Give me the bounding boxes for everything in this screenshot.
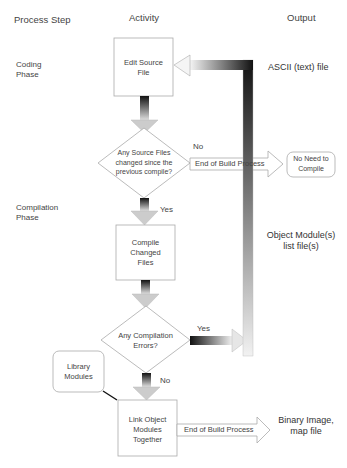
output-object-line2: list file(s) [266, 241, 336, 252]
edit-source-label: Edit Source File [114, 58, 173, 78]
edge-label-end-build-1: End of Build Process [195, 159, 265, 169]
no-need-line1: No Need to [287, 154, 335, 164]
header-process-step: Process Step [14, 14, 71, 25]
decision1-line2: changed since the [100, 158, 188, 168]
output-ascii: ASCII (text) file [268, 62, 329, 73]
decision2-line1: Any Compilation [101, 331, 190, 341]
header-activity: Activity [129, 12, 159, 23]
phase-coding-line2: Phase [16, 70, 41, 80]
compile-label: Compile Changed Files [116, 238, 175, 268]
link-line1: Link Object [118, 415, 177, 425]
output-binary-line1: Binary Image, [274, 415, 338, 426]
library-line1: Library [53, 362, 104, 372]
library-label: Library Modules [53, 362, 104, 382]
decision-errors-label: Any Compilation Errors? [101, 331, 190, 351]
edit-source-line1: Edit Source [114, 58, 173, 68]
loop-back-bar [174, 55, 253, 356]
phase-compilation-line2: Phase [16, 213, 58, 223]
output-binary-line2: map file [274, 426, 338, 437]
library-line2: Modules [53, 372, 104, 382]
phase-coding: Coding Phase [16, 60, 41, 80]
link-label: Link Object Modules Together [118, 415, 177, 445]
arrow-decision-to-compile [131, 198, 158, 225]
edge-label-end-build-2: End of Build Process [184, 425, 254, 435]
decision1-line1: Any Source Files [100, 148, 188, 158]
compile-line2: Changed [116, 248, 175, 258]
phase-compilation-line1: Compilation [16, 203, 58, 213]
decision1-line3: previous compile? [100, 167, 188, 177]
edge-label-no-2: No [160, 376, 170, 386]
decision2-line2: Errors? [101, 341, 190, 351]
no-need-label: No Need to Compile [287, 154, 335, 174]
compile-line3: Files [116, 258, 175, 268]
link-line2: Modules [118, 425, 177, 435]
edge-label-no: No [193, 142, 203, 152]
output-object: Object Module(s) list file(s) [266, 230, 336, 252]
decision-source-changed-label: Any Source Files changed since the previ… [100, 148, 188, 177]
edge-label-yes-1: Yes [160, 205, 173, 215]
link-line3: Together [118, 435, 177, 445]
arrow-errors-to-link [133, 373, 160, 400]
compile-line1: Compile [116, 238, 175, 248]
output-binary: Binary Image, map file [274, 415, 338, 437]
header-output: Output [287, 12, 316, 23]
phase-compilation: Compilation Phase [16, 203, 58, 223]
arrow-edit-to-decision [131, 96, 158, 133]
output-object-line1: Object Module(s) [266, 230, 336, 241]
library-connector [103, 391, 117, 400]
no-need-line2: Compile [287, 164, 335, 174]
edge-label-yes-2: Yes [197, 324, 210, 334]
edit-source-line2: File [114, 68, 173, 78]
arrow-compile-to-errors [132, 280, 159, 308]
phase-coding-line1: Coding [16, 60, 41, 70]
